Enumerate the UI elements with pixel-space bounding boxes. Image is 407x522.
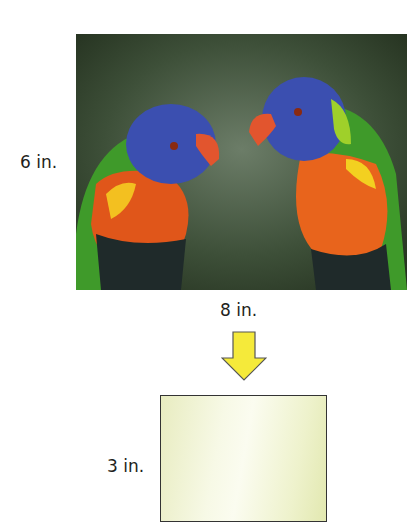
width-label-original: 8 in. xyxy=(220,300,257,320)
height-label-original: 6 in. xyxy=(20,152,57,172)
parrots-illustration xyxy=(76,34,407,290)
scaled-rectangle xyxy=(160,395,327,522)
lorikeet-photo xyxy=(76,34,407,290)
down-arrow-icon xyxy=(221,331,267,381)
height-label-scaled: 3 in. xyxy=(107,456,144,476)
